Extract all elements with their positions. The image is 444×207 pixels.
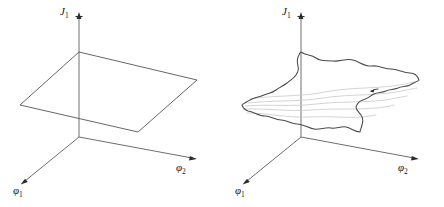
left-flat-plane bbox=[20, 52, 197, 132]
left-axis-phi2 bbox=[79, 137, 197, 161]
left-j1-sub: 1 bbox=[65, 11, 69, 20]
right-surface-gridlines bbox=[244, 81, 419, 117]
diagram-svg bbox=[0, 0, 444, 207]
right-axis-label-j1: J1 bbox=[282, 6, 291, 20]
left-axis-phi1 bbox=[21, 137, 79, 185]
right-axis-label-phi2: φ2 bbox=[398, 162, 408, 176]
right-axis-label-phi1: φ1 bbox=[235, 185, 245, 199]
right-axis-phi2 bbox=[301, 137, 419, 161]
left-axis-label-phi1: φ1 bbox=[13, 185, 23, 199]
right-axis-j1 bbox=[298, 12, 305, 137]
right-phi2-sub: 2 bbox=[404, 167, 408, 176]
right-j1-sub: 1 bbox=[287, 11, 291, 20]
left-axis-label-j1: J1 bbox=[60, 6, 69, 20]
left-phi1-sub: 1 bbox=[19, 190, 23, 199]
right-phi1-sub: 1 bbox=[241, 190, 245, 199]
left-axis-label-phi2: φ2 bbox=[176, 162, 186, 176]
figure-canvas: J1 φ1 φ2 J1 φ1 φ2 bbox=[0, 0, 444, 207]
left-phi2-sub: 2 bbox=[182, 167, 186, 176]
right-axis-phi1 bbox=[243, 137, 301, 185]
right-wavy-surface bbox=[242, 52, 419, 132]
right-panel-group bbox=[242, 12, 419, 185]
left-panel-group bbox=[20, 12, 197, 185]
